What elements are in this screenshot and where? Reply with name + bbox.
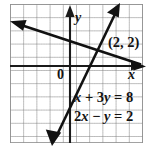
eq1-term1: x: [73, 89, 81, 105]
eq2-var1: x: [80, 108, 88, 124]
eq2-equals: =: [110, 108, 126, 124]
equation-one-label: x + 3y = 8: [73, 89, 133, 105]
eq1-plus: +: [81, 89, 97, 105]
eq1-equals: =: [110, 89, 126, 105]
eq1-coef2: 3: [97, 89, 104, 105]
intersection-point-label: (2, 2): [108, 34, 140, 51]
origin-label: 0: [57, 67, 64, 82]
coordinate-graph: y x 0 (2, 2) x + 3y = 8 2x − y = 2: [0, 0, 150, 155]
eq2-minus: −: [89, 108, 105, 124]
eq1-rhs: 8: [126, 89, 133, 105]
figure-canvas: y x 0 (2, 2) x + 3y = 8 2x − y = 2: [0, 0, 150, 155]
equation-two-label: 2x − y = 2: [74, 108, 133, 124]
y-axis-label: y: [73, 10, 82, 25]
x-axis-label: x: [127, 67, 135, 82]
eq2-rhs: 2: [126, 108, 133, 124]
eq2-coef1: 2: [74, 108, 81, 124]
